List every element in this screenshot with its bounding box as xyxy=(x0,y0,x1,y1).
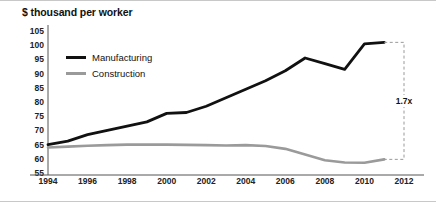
legend-swatch-manufacturing-icon xyxy=(66,56,86,59)
line-series-construction xyxy=(48,145,384,163)
ratio-annotation-label: 1.7x xyxy=(394,95,415,107)
legend-item-manufacturing: Manufacturing xyxy=(66,53,152,63)
chart-container: $ thousand per worker 105100959085807570… xyxy=(0,1,436,201)
legend-label-manufacturing: Manufacturing xyxy=(92,53,152,63)
legend-swatch-construction-icon xyxy=(66,72,86,75)
legend-label-construction: Construction xyxy=(92,69,145,79)
legend-item-construction: Construction xyxy=(66,69,145,79)
plot-area xyxy=(0,1,436,202)
